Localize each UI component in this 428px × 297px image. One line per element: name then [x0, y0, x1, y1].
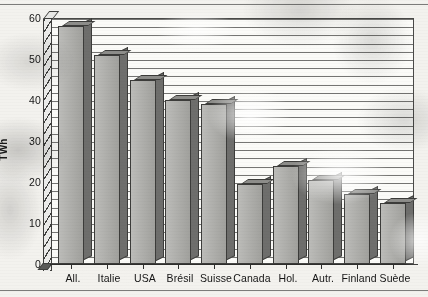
y-tick-label: 0: [1, 258, 41, 270]
bar-front-face: [237, 184, 263, 264]
bar-front-face: [58, 26, 84, 264]
bar-side-face: [191, 92, 199, 260]
x-tick-label: Autr.: [312, 272, 334, 284]
y-tick-label: 50: [1, 53, 41, 65]
bar-side-face: [334, 172, 342, 260]
x-tick: [178, 264, 179, 269]
x-tick: [250, 264, 251, 269]
bar: [201, 99, 227, 264]
bar-front-face: [273, 166, 299, 264]
y-tick-label: 20: [1, 176, 41, 188]
bar-chart: 6050403020100 TWh All.ItalieUSABrésilSui…: [0, 0, 428, 297]
bar: [308, 175, 334, 264]
bar-side-face: [84, 18, 92, 260]
bar: [237, 179, 263, 264]
x-tick: [393, 264, 394, 269]
y-axis-wall: [43, 18, 52, 271]
bar: [94, 50, 120, 264]
y-axis-title: TWh: [0, 138, 9, 161]
bar: [344, 189, 370, 264]
x-tick-label: Italie: [98, 272, 121, 284]
bar-side-face: [370, 186, 378, 260]
x-tick-label: All.: [66, 272, 81, 284]
bar: [380, 198, 406, 265]
bar-side-face: [120, 47, 128, 260]
x-tick-label: USA: [134, 272, 156, 284]
x-tick: [71, 264, 72, 269]
x-tick: [357, 264, 358, 269]
x-tick: [214, 264, 215, 269]
x-tick: [143, 264, 144, 269]
scanned-chart-page: 6050403020100 TWh All.ItalieUSABrésilSui…: [0, 0, 428, 297]
bar-front-face: [201, 104, 227, 264]
page-top-rule: [0, 4, 428, 5]
bar-side-face: [156, 71, 164, 260]
bar: [58, 21, 84, 264]
x-tick-label: Canada: [233, 272, 270, 284]
bar-side-face: [227, 96, 235, 260]
x-tick: [107, 264, 108, 269]
y-tick-label: 10: [1, 217, 41, 229]
bar-front-face: [130, 80, 156, 265]
bar-side-face: [299, 158, 307, 260]
bar-side-face: [263, 176, 271, 260]
x-tick-label: Finland: [341, 272, 376, 284]
bar: [165, 95, 191, 264]
bar: [130, 75, 156, 265]
bar-front-face: [380, 203, 406, 265]
y-tick-label: 60: [1, 12, 41, 24]
bar-front-face: [308, 180, 334, 264]
bar-front-face: [165, 100, 191, 264]
page-bottom-rule: [0, 290, 428, 291]
bar: [273, 161, 299, 264]
x-tick-label: Suisse: [200, 272, 232, 284]
x-tick-label: Suède: [380, 272, 411, 284]
bar-front-face: [344, 194, 370, 264]
x-axis-line: [50, 264, 418, 265]
x-tick-label: Hol.: [278, 272, 297, 284]
bar-side-face: [406, 194, 414, 260]
x-tick: [286, 264, 287, 269]
x-tick: [321, 264, 322, 269]
bar-front-face: [94, 55, 120, 264]
y-tick-label: 40: [1, 94, 41, 106]
x-tick-label: Brésil: [167, 272, 194, 284]
